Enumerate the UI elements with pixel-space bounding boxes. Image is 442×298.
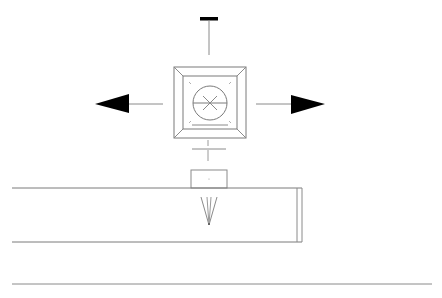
- diagram-canvas: [0, 0, 442, 298]
- right-arrow-icon: [256, 95, 325, 114]
- top-arrow-icon: [200, 17, 218, 55]
- duct-neck: [191, 170, 227, 188]
- diffuser-drawing: [0, 0, 442, 298]
- diffuser-icon: [174, 67, 246, 138]
- left-arrow-icon: [95, 94, 163, 113]
- duct-body: [12, 188, 302, 242]
- flow-indicator-icon: [201, 197, 217, 225]
- bottom-marker-icon: [192, 140, 226, 161]
